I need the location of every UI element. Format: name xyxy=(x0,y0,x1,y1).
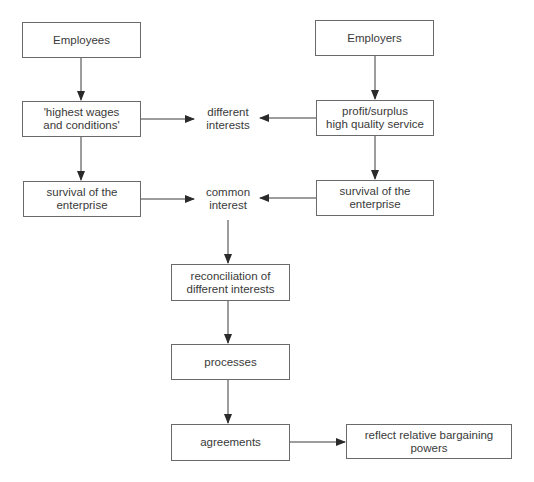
node-employers: Employers xyxy=(315,20,434,56)
node-processes-label: processes xyxy=(204,356,256,369)
node-employees-label: Employees xyxy=(53,34,110,47)
node-processes: processes xyxy=(171,344,290,380)
node-employers-label: Employers xyxy=(347,32,401,45)
node-reflect-bargaining: reflect relative bargaining powers xyxy=(346,424,512,459)
node-survival-right-line2: enterprise xyxy=(349,198,400,211)
connector-arrows xyxy=(0,0,534,482)
node-survival-left: survival of the enterprise xyxy=(23,181,141,217)
node-profit-surplus-line2: high quality service xyxy=(326,118,424,131)
node-different-interests-line1: different xyxy=(194,106,262,119)
node-different-interests-line2: interests xyxy=(194,119,262,132)
node-survival-left-line1: survival of the xyxy=(47,186,118,199)
node-highest-wages-line1: 'highest wages xyxy=(44,106,120,119)
node-reconciliation-line1: reconciliation of xyxy=(191,270,271,283)
node-common-interest-line1: common xyxy=(194,186,262,199)
node-agreements: agreements xyxy=(171,424,290,461)
node-highest-wages-line2: and conditions' xyxy=(43,119,119,132)
node-highest-wages: 'highest wages and conditions' xyxy=(22,101,141,137)
node-common-interest-line2: interest xyxy=(194,199,262,212)
node-reconciliation: reconciliation of different interests xyxy=(171,264,290,301)
node-survival-right-line1: survival of the xyxy=(340,185,411,198)
node-survival-right: survival of the enterprise xyxy=(316,180,434,216)
node-common-interest: common interest xyxy=(194,186,262,212)
node-employees: Employees xyxy=(22,22,141,58)
node-reflect-bargaining-label: reflect relative bargaining powers xyxy=(347,429,511,455)
node-profit-surplus: profit/surplus high quality service xyxy=(316,100,434,136)
node-reconciliation-line2: different interests xyxy=(186,283,274,296)
node-different-interests: different interests xyxy=(194,106,262,132)
node-survival-left-line2: enterprise xyxy=(56,199,107,212)
node-profit-surplus-line1: profit/surplus xyxy=(342,105,408,118)
node-agreements-label: agreements xyxy=(200,436,261,449)
